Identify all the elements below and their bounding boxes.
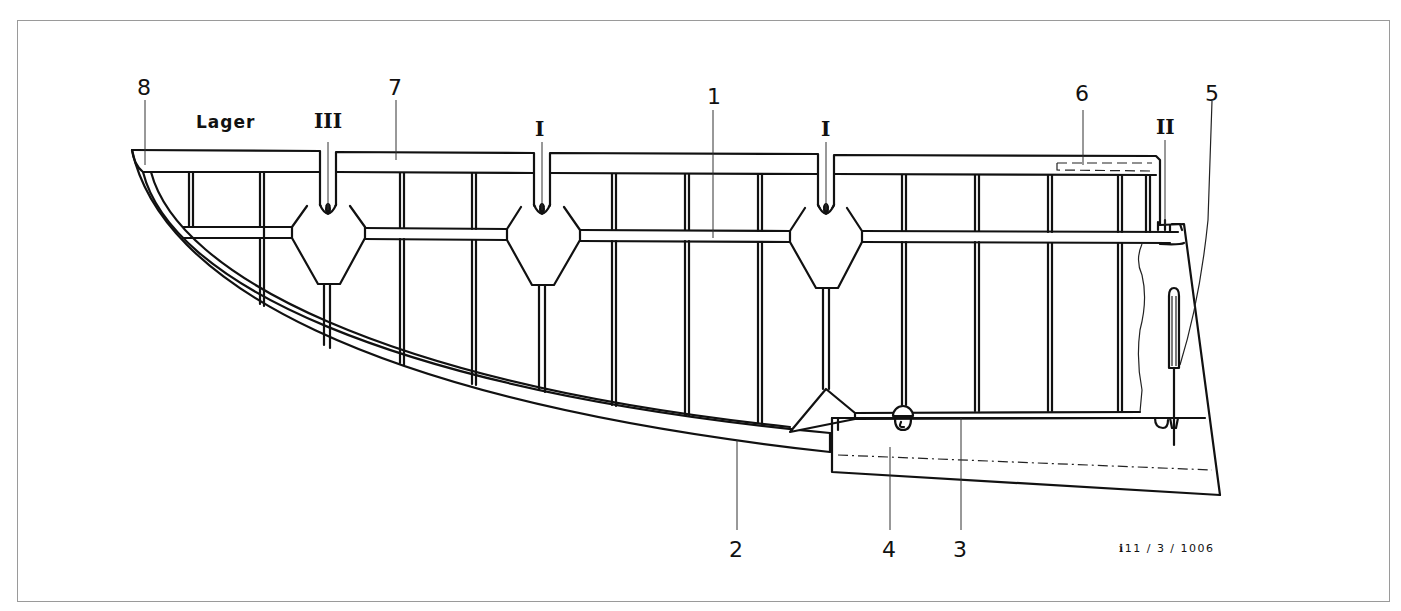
label-part-2: 2 bbox=[729, 537, 743, 562]
callout-labels: 8 Lager III 7 I 1 I 6 II 5 2 4 3 ℹ11 / 3… bbox=[137, 75, 1219, 562]
label-part-5: 5 bbox=[1205, 81, 1219, 106]
dashed-insert bbox=[1057, 163, 1152, 171]
label-part-8: 8 bbox=[137, 75, 151, 100]
label-hinge-I-right: I bbox=[821, 117, 830, 141]
label-hinge-II: II bbox=[1156, 115, 1175, 139]
label-hinge-I-left: I bbox=[535, 117, 544, 141]
label-part-4: 4 bbox=[882, 537, 896, 562]
label-part-1: 1 bbox=[707, 84, 721, 109]
label-part-6: 6 bbox=[1075, 81, 1089, 106]
control-surface-drawing: 8 Lager III 7 I 1 I 6 II 5 2 4 3 ℹ11 / 3… bbox=[0, 0, 1401, 611]
label-hinge-III: III bbox=[314, 109, 342, 133]
leading-edge bbox=[132, 150, 830, 452]
leader-lines bbox=[145, 100, 1165, 530]
label-part-7: 7 bbox=[388, 75, 402, 100]
top-spar bbox=[132, 150, 1160, 225]
label-part-3: 3 bbox=[953, 537, 967, 562]
figure-reference-code: ℹ11 / 3 / 1006 bbox=[1119, 542, 1215, 555]
label-bearing: Lager bbox=[196, 112, 255, 132]
tip-section bbox=[1138, 101, 1220, 495]
